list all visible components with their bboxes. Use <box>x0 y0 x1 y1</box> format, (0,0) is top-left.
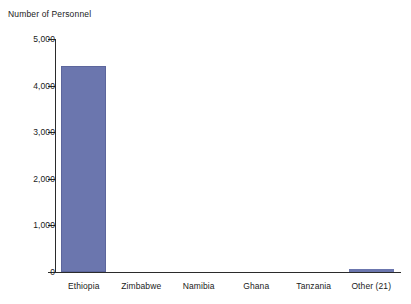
bar-slot <box>285 39 343 272</box>
bar-slot <box>228 39 286 272</box>
bar-slot <box>113 39 171 272</box>
bar-chart-figure: Number of Personnel 5,000 4,000 3,000 2,… <box>0 0 411 304</box>
y-tick-label: 2,000 <box>11 174 55 184</box>
x-axis-line <box>55 272 401 273</box>
x-label-namibia: Namibia <box>183 281 215 291</box>
bar-other[interactable] <box>349 269 394 272</box>
y-tick-label: 5,000 <box>11 34 55 44</box>
bar-ethiopia[interactable] <box>61 66 106 272</box>
x-label-ethiopia: Ethiopia <box>68 281 100 291</box>
bar-slot <box>55 39 113 272</box>
y-axis-title: Number of Personnel <box>8 9 91 19</box>
y-tick-label: 3,000 <box>11 127 55 137</box>
x-label-zimbabwe: Zimbabwe <box>121 281 161 291</box>
plot-area <box>55 39 400 272</box>
y-tick-label: 4,000 <box>11 81 55 91</box>
bar-slot <box>343 39 401 272</box>
x-label-tanzania: Tanzania <box>296 281 331 291</box>
y-tick-label: 0 <box>11 267 55 277</box>
x-label-ghana: Ghana <box>243 281 269 291</box>
x-label-other: Other (21) <box>351 281 391 291</box>
y-tick-label: 1,000 <box>11 220 55 230</box>
bar-slot <box>170 39 228 272</box>
